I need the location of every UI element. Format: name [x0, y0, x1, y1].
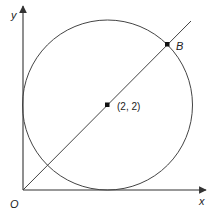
center-label: (2, 2) — [117, 101, 140, 112]
point-b-label: B — [176, 40, 183, 52]
center-point — [105, 103, 110, 108]
origin-label: O — [10, 198, 19, 210]
circle-diagram: y x O B (2, 2) — [0, 0, 219, 218]
x-axis-label: x — [198, 195, 205, 207]
point-b — [165, 42, 170, 47]
y-axis-label: y — [10, 9, 18, 21]
